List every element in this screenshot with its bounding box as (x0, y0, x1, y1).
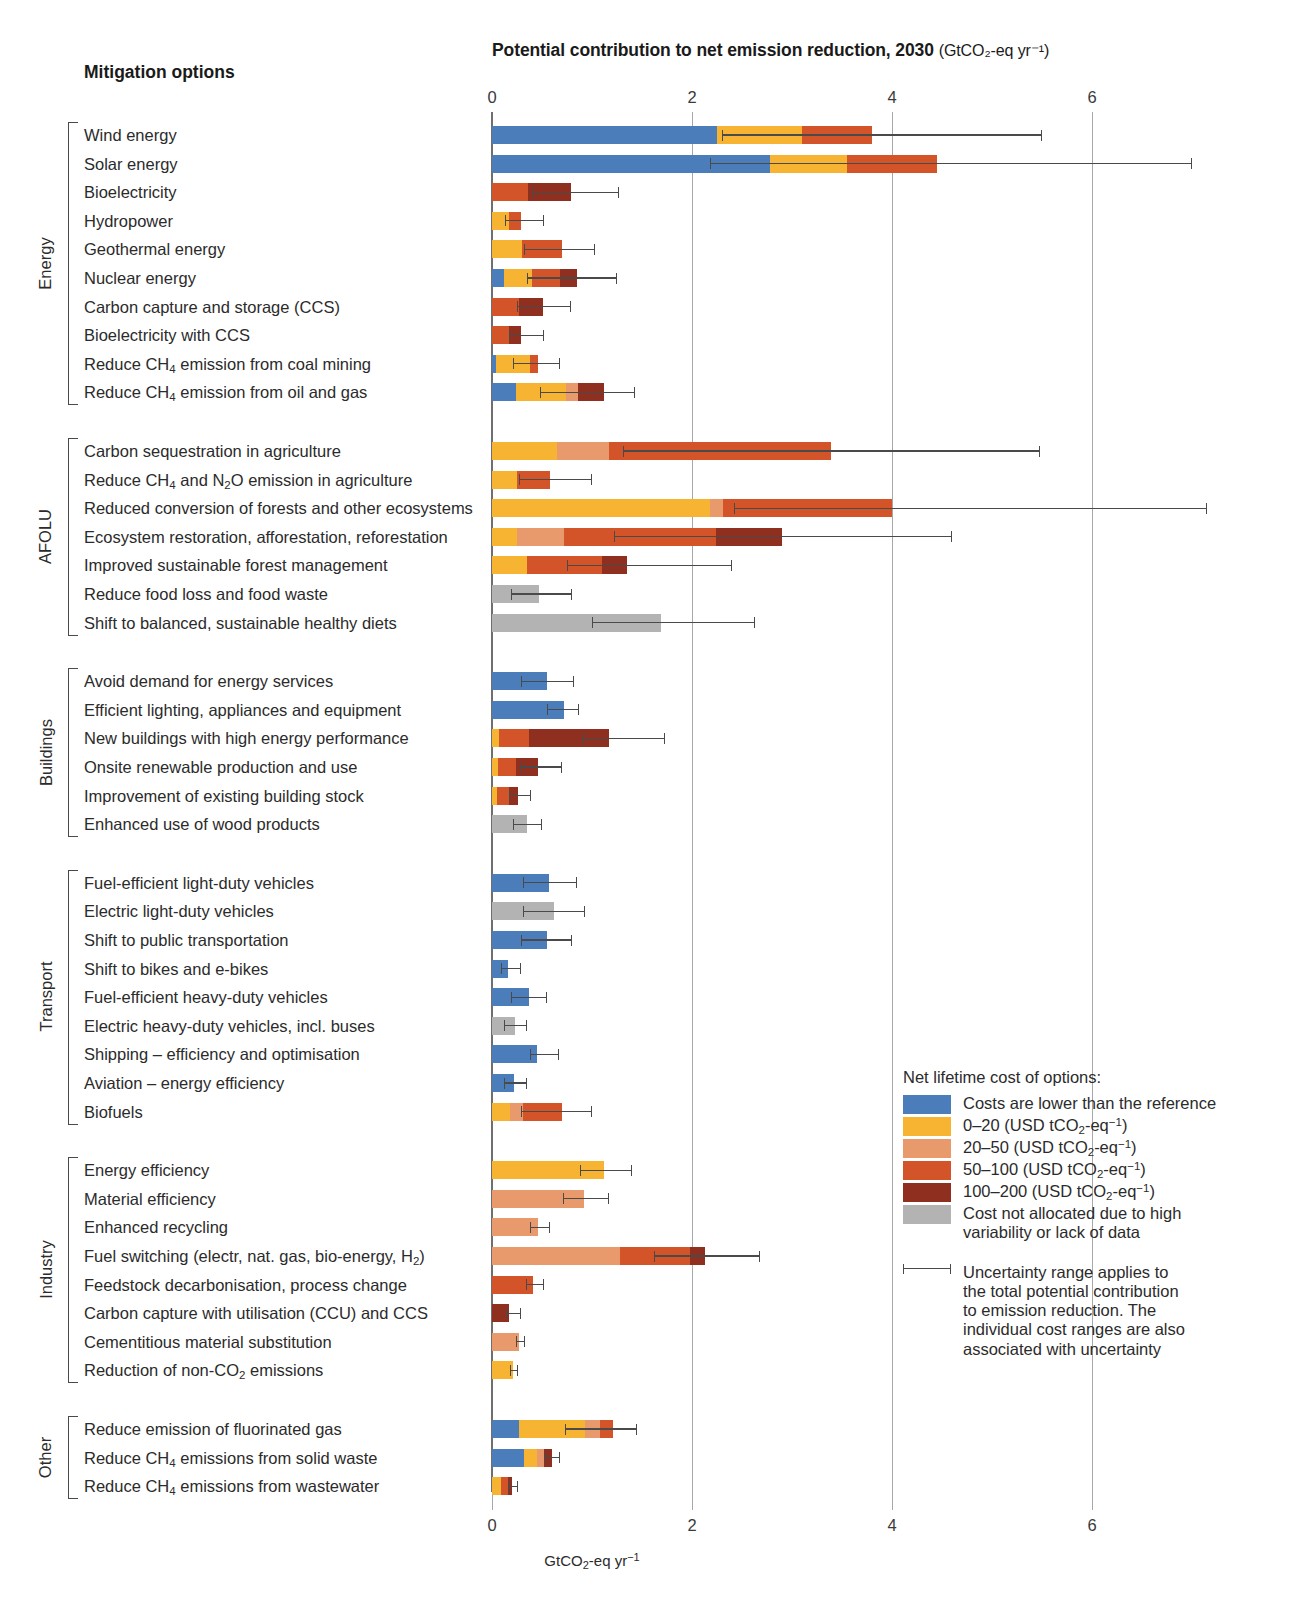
error-bar-line (710, 163, 1192, 164)
option-label: Hydropower (84, 213, 173, 230)
error-bar-cap (506, 1308, 507, 1319)
error-bar-line (734, 508, 1207, 509)
error-bar-line (563, 1198, 609, 1199)
error-bar-cap (540, 387, 541, 398)
bar-segment (499, 729, 529, 747)
error-bar-cap (759, 1251, 760, 1262)
error-bar-cap (511, 992, 512, 1003)
error-bar-cap (558, 1049, 559, 1060)
option-label: Shipping – efficiency and optimisation (84, 1046, 360, 1063)
error-bar-line (526, 1284, 544, 1285)
error-bar-cap (576, 877, 577, 888)
option-label: Solar energy (84, 156, 178, 173)
bar-segment (492, 383, 516, 401)
bar-segment (524, 1449, 537, 1467)
chart-page: Potential contribution to net emission r… (0, 0, 1309, 1606)
error-bar-cap (519, 474, 520, 485)
option-label: Bioelectricity (84, 184, 177, 201)
error-bar-cap (543, 215, 544, 226)
error-bar-line (654, 1255, 760, 1256)
group-bracket (68, 668, 78, 837)
option-label: Efficient lighting, appliances and equip… (84, 702, 401, 719)
option-label: Material efficiency (84, 1191, 216, 1208)
option-label: Improved sustainable forest management (84, 557, 388, 574)
error-bar-cap (511, 589, 512, 600)
error-bar-cap (591, 1106, 592, 1117)
option-label: Geothermal energy (84, 241, 225, 258)
option-label: Shift to bikes and e-bikes (84, 961, 268, 978)
option-label: Reduction of non-CO2 emissions (84, 1362, 323, 1379)
legend-item: Costs are lower than the reference (903, 1094, 1303, 1114)
option-label: Reduce emission of fluorinated gas (84, 1421, 342, 1438)
error-bar-cap (526, 1020, 527, 1031)
uncertainty-note: Uncertainty range applies to the total p… (963, 1263, 1193, 1359)
option-label: Reduce CH4 and N2O emission in agricultu… (84, 472, 412, 489)
error-bar-cap (509, 790, 510, 801)
legend-label: 0–20 (USD tCO2-eq−1) (963, 1116, 1127, 1135)
option-label: Shift to balanced, sustainable healthy d… (84, 615, 397, 632)
option-label: Feedstock decarbonisation, process chang… (84, 1277, 407, 1294)
error-bar-line (501, 968, 521, 969)
option-label: Cementitious material substitution (84, 1334, 332, 1351)
gridline-4 (892, 112, 893, 1492)
group-bracket (68, 870, 78, 1125)
legend-items: Costs are lower than the reference0–20 (… (903, 1094, 1303, 1243)
error-bar-cap (614, 531, 615, 542)
option-label: Fuel-efficient heavy-duty vehicles (84, 989, 328, 1006)
error-bar-cap (520, 963, 521, 974)
error-bar-cap (578, 704, 579, 715)
error-bar-line (509, 335, 544, 336)
error-bar-cap (734, 503, 735, 514)
uncertainty-range-icon (903, 1264, 951, 1283)
error-bar-cap (523, 877, 524, 888)
error-bar-cap (631, 1165, 632, 1176)
error-bar-cap (591, 474, 592, 485)
error-bar-cap (559, 358, 560, 369)
error-bar-cap (516, 1336, 517, 1347)
bar-segment (492, 298, 519, 316)
legend-title: Net lifetime cost of options: (903, 1068, 1303, 1087)
bar-segment (497, 787, 509, 805)
bar-segment (492, 269, 504, 287)
error-bar-cap (521, 676, 522, 687)
bar-segment (492, 1103, 510, 1121)
option-label: Shift to public transportation (84, 932, 289, 949)
x-tickmark-2 (692, 1492, 693, 1510)
bar-segment (492, 326, 509, 344)
error-bar-line (580, 1170, 632, 1171)
legend-item: 50–100 (USD tCO2-eq−1) (903, 1160, 1303, 1180)
error-bar-cap (1206, 503, 1207, 514)
option-label: Fuel-efficient light-duty vehicles (84, 875, 314, 892)
group-label-other: Other (36, 1416, 55, 1499)
bar-segment (492, 556, 527, 574)
error-bar-cap (530, 1222, 531, 1233)
error-bar-line (517, 306, 571, 307)
legend-swatch-cost-20-50 (903, 1139, 951, 1158)
error-bar-cap (1039, 446, 1040, 457)
legend-label: 20–50 (USD tCO2-eq−1) (963, 1138, 1137, 1157)
error-bar-cap (517, 1481, 518, 1492)
error-bar-line (547, 709, 579, 710)
x-tick-bottom-6: 6 (1087, 1516, 1096, 1535)
error-bar-line (505, 220, 544, 221)
error-bar-cap (526, 1279, 527, 1290)
error-bar-cap (521, 1106, 522, 1117)
error-bar-cap (608, 1193, 609, 1204)
error-bar-cap (517, 1365, 518, 1376)
group-bracket (68, 1157, 78, 1383)
bar-segment (492, 1247, 620, 1265)
option-label: Energy efficiency (84, 1162, 209, 1179)
error-bar-cap (532, 187, 533, 198)
option-label: Bioelectricity with CCS (84, 327, 250, 344)
error-bar-cap (546, 992, 547, 1003)
error-bar-cap (710, 158, 711, 169)
option-label: Ecosystem restoration, afforestation, re… (84, 529, 448, 546)
error-bar-line (582, 738, 665, 739)
error-bar-line (722, 134, 1042, 135)
error-bar-cap (545, 1452, 546, 1463)
bar-segment (492, 1449, 524, 1467)
error-bar-cap (521, 935, 522, 946)
legend-swatch-lower-than-reference (903, 1095, 951, 1114)
group-label-buildings: Buildings (37, 668, 56, 837)
bar-segment (492, 471, 517, 489)
